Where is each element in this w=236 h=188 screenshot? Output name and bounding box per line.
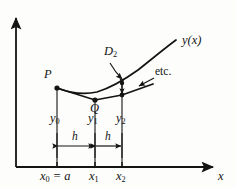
annotation-label-D2: D2 xyxy=(104,45,117,60)
step-label-h-1: h xyxy=(72,131,78,143)
axis-label-x: x xyxy=(218,170,224,183)
abscissa-label-x1: x1 xyxy=(89,170,99,185)
step-label-h-2: h xyxy=(105,131,111,143)
figure-canvas: y(x) P Q D2 etc. y0 y1 y2 h h x0= a x1 x… xyxy=(0,0,236,188)
chord-polyline xyxy=(57,84,153,100)
abscissa-label-x0: x0= a xyxy=(40,170,71,185)
diagram-svg xyxy=(0,0,236,188)
ordinate-label-y1: y1 xyxy=(88,112,98,127)
ordinate-label-y0: y0 xyxy=(50,112,60,127)
point-label-P: P xyxy=(44,68,52,81)
annotation-label-etc: etc. xyxy=(155,66,171,78)
ordinate-label-y2: y2 xyxy=(116,112,126,127)
d2-leader-line xyxy=(110,63,122,79)
point-marker-P xyxy=(54,85,59,90)
curve-label-yx: y(x) xyxy=(182,34,201,47)
abscissa-label-x2: x2 xyxy=(116,170,126,185)
